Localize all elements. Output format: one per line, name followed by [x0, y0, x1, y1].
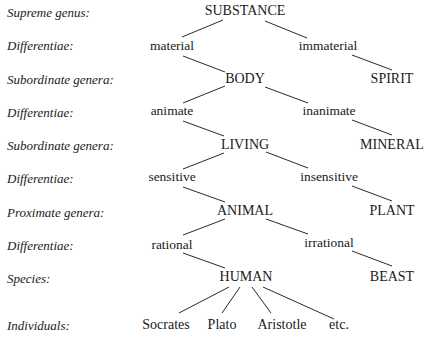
level-label-subordinate-genera: Subordinate genera:	[7, 72, 114, 88]
node-material: material	[150, 38, 194, 54]
node-individual-aristotle: Aristotle	[258, 317, 307, 333]
node-body: BODY	[225, 71, 265, 87]
level-label-differentiae: Differentiae:	[7, 238, 74, 254]
node-substance: SUBSTANCE	[205, 3, 286, 19]
node-insensitive: insensitive	[300, 169, 358, 185]
node-living: LIVING	[221, 137, 269, 153]
node-mineral: MINERAL	[360, 137, 424, 153]
node-rational: rational	[151, 237, 192, 253]
node-human: HUMAN	[220, 269, 273, 285]
level-label-subordinate-genera: Subordinate genera:	[7, 138, 114, 154]
node-sensitive: sensitive	[148, 169, 195, 185]
level-label-differentiae: Differentiae:	[7, 38, 74, 54]
node-individual-plato: Plato	[208, 317, 237, 333]
node-irrational: irrational	[304, 235, 353, 251]
level-label-differentiae: Differentiae:	[7, 105, 74, 121]
node-animal: ANIMAL	[217, 203, 273, 219]
node-individual-etc: etc.	[329, 317, 349, 333]
node-spirit: SPIRIT	[371, 71, 414, 87]
node-animate: animate	[151, 103, 194, 119]
level-label-supreme-genus: Supreme genus:	[7, 5, 90, 21]
node-plant: PLANT	[369, 203, 414, 219]
level-label-proximate-genera: Proximate genera:	[7, 205, 104, 221]
node-individual-socrates: Socrates	[142, 317, 189, 333]
level-label-species: Species:	[7, 271, 50, 287]
level-label-differentiae: Differentiae:	[7, 171, 74, 187]
level-label-individuals: Individuals:	[7, 318, 70, 334]
node-inanimate: inanimate	[302, 103, 355, 119]
node-beast: BEAST	[370, 269, 414, 285]
node-immaterial: immaterial	[299, 38, 357, 54]
